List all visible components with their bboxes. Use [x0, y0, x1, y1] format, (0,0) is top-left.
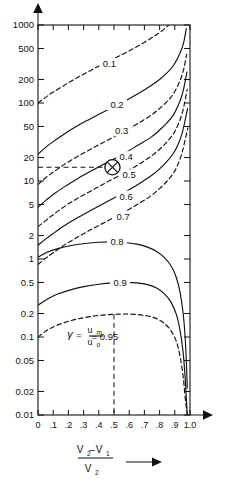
y-tick-label: 5	[29, 199, 34, 210]
x-tick-label: 1.0	[184, 420, 197, 430]
y-tick-label: 500	[18, 43, 34, 54]
curve-0.1	[38, 0, 186, 103]
gamma-annotation: γ = u m u o = 0.95	[67, 325, 118, 348]
y-axis-arrow-icon	[33, 3, 43, 26]
x-tick-label: .5	[110, 420, 118, 430]
y-tick-label: 20	[23, 152, 34, 163]
x-axis-caption: V 2 – V 1 V 2	[77, 444, 162, 476]
x-caption-denominator-sub: 2	[95, 469, 99, 476]
x-tick-label: 0	[35, 420, 40, 430]
gamma-value: = 0.95	[92, 331, 119, 342]
x-caption-denominator: V	[85, 463, 92, 474]
x-tick-label: .9	[171, 420, 179, 430]
y-tick-label: 0.2	[21, 308, 34, 319]
curve-0.8	[38, 242, 187, 388]
curve-label-0.7: 0.7	[117, 211, 130, 222]
gamma-equals: =	[76, 330, 81, 340]
y-tick-label: 0.05	[16, 355, 35, 366]
x-tick-label: .2	[65, 420, 73, 430]
y-tick-label: 1000	[13, 19, 34, 30]
gamma-denominator-sub: o	[97, 341, 101, 348]
curve-label-0.9: 0.9	[113, 277, 126, 288]
x-tick-label: .8	[156, 420, 164, 430]
x-caption-numerator-a: V	[77, 444, 84, 455]
curve-label-0.6: 0.6	[120, 191, 133, 202]
x-tick-label: .6	[125, 420, 133, 430]
x-caption-numerator-b: V	[96, 444, 103, 455]
gamma-symbol: γ	[67, 328, 74, 340]
y-tick-label: 200	[18, 74, 34, 85]
y-tick-label: 10	[23, 175, 34, 186]
y-tick-label: 2	[29, 230, 34, 241]
x-tick-label: .4	[95, 420, 103, 430]
y-tick-label: 1	[29, 253, 34, 264]
curve-label-0.3: 0.3	[115, 125, 128, 136]
y-tick-label: 0.1	[21, 331, 34, 342]
curve-0.9	[38, 282, 187, 415]
x-caption-numerator-b-sub: 1	[106, 450, 110, 457]
curve-label-0.8: 0.8	[110, 236, 123, 247]
y-tick-label: 100	[18, 97, 34, 108]
curve-0.4	[38, 72, 187, 207]
curve-labels: 0.10.20.30.40.50.60.70.80.9	[99, 58, 139, 288]
x-tick-labels: 0.1.2.3.4.5.6.7.8.91.0	[35, 420, 196, 430]
x-caption-minus: –	[89, 444, 95, 455]
chart-figure: 10005002001005020105210.50.20.10.050.020…	[0, 0, 227, 488]
y-tick-labels: 10005002001005020105210.50.20.10.050.020…	[13, 19, 34, 420]
x-tick-label: .3	[80, 420, 88, 430]
y-tick-label: 0.02	[16, 386, 35, 397]
x-tick-label: .7	[141, 420, 149, 430]
curve-0.95	[38, 314, 187, 415]
curve-label-0.4: 0.4	[120, 151, 133, 162]
curve-label-0.5: 0.5	[123, 169, 136, 180]
operating-point-marker	[105, 160, 120, 175]
curve-label-0.1: 0.1	[103, 58, 116, 69]
y-tick-label: 50	[23, 121, 34, 132]
x-caption-arrow-icon	[126, 457, 162, 466]
x-tick-label: .1	[49, 420, 57, 430]
x-axis-arrow-icon	[190, 410, 213, 420]
y-tick-label: 0.5	[21, 277, 34, 288]
contour-chart-svg: 10005002001005020105210.50.20.10.050.020…	[0, 0, 227, 488]
y-tick-label: 0.01	[16, 409, 35, 420]
curve-label-0.2: 0.2	[110, 99, 123, 110]
